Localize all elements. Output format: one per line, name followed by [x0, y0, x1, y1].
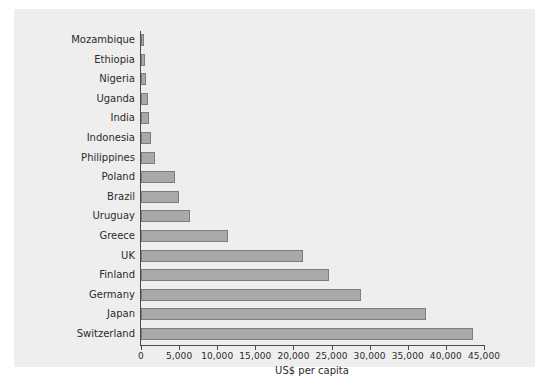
x-tick-label: 0: [138, 351, 144, 361]
category-label: UK: [0, 247, 135, 265]
category-label: Uganda: [0, 90, 135, 108]
x-tick: [293, 346, 294, 350]
x-tick-label: 35,000: [392, 351, 424, 361]
bar: [141, 112, 149, 124]
bar: [141, 191, 179, 203]
category-label: Uruguay: [0, 207, 135, 225]
x-tick-label: 10,000: [201, 351, 233, 361]
x-tick: [179, 346, 180, 350]
bar-row: Japan: [141, 305, 484, 325]
category-label: India: [0, 109, 135, 127]
x-axis-label: US$ per capita: [275, 365, 349, 376]
bar: [141, 210, 190, 222]
bar-row: Greece: [141, 227, 484, 247]
x-tick-label: 5,000: [166, 351, 192, 361]
bar-row: India: [141, 109, 484, 129]
x-tick-label: 25,000: [316, 351, 348, 361]
bar-row: UK: [141, 247, 484, 267]
bar: [141, 269, 329, 281]
bar: [141, 132, 151, 144]
bar: [141, 73, 146, 85]
bar: [141, 152, 155, 164]
x-tick: [370, 346, 371, 350]
category-label: Philippines: [0, 149, 135, 167]
bar-row: Switzerland: [141, 325, 484, 345]
bar-row: Uruguay: [141, 207, 484, 227]
x-tick-label: 15,000: [239, 351, 271, 361]
category-label: Indonesia: [0, 129, 135, 147]
chart-figure: 05,00010,00015,00020,00025,00030,00035,0…: [0, 0, 551, 386]
bar: [141, 289, 361, 301]
bar-row: Nigeria: [141, 70, 484, 90]
bar: [141, 328, 473, 340]
x-tick-label: 30,000: [354, 351, 386, 361]
bar: [141, 93, 148, 105]
bar-row: Mozambique: [141, 31, 484, 51]
category-label: Nigeria: [0, 70, 135, 88]
bar: [141, 54, 145, 66]
x-tick: [141, 346, 142, 350]
x-tick: [217, 346, 218, 350]
x-tick: [332, 346, 333, 350]
category-label: Ethiopia: [0, 51, 135, 69]
bar-row: Germany: [141, 286, 484, 306]
bar-row: Poland: [141, 168, 484, 188]
x-tick: [484, 346, 485, 350]
bar: [141, 230, 228, 242]
chart-panel: 05,00010,00015,00020,00025,00030,00035,0…: [14, 9, 535, 367]
category-label: Greece: [0, 227, 135, 245]
category-label: Switzerland: [0, 325, 135, 343]
category-label: Germany: [0, 286, 135, 304]
bar-row: Finland: [141, 266, 484, 286]
bar-row: Ethiopia: [141, 51, 484, 71]
bar-row: Brazil: [141, 188, 484, 208]
x-tick: [408, 346, 409, 350]
bar: [141, 34, 144, 46]
x-tick-label: 20,000: [277, 351, 309, 361]
category-label: Brazil: [0, 188, 135, 206]
bar-row: Uganda: [141, 90, 484, 110]
bar-row: Philippines: [141, 149, 484, 169]
category-label: Japan: [0, 305, 135, 323]
category-label: Poland: [0, 168, 135, 186]
x-tick-label: 45,000: [468, 351, 500, 361]
bar: [141, 250, 303, 262]
category-label: Mozambique: [0, 31, 135, 49]
x-tick: [446, 346, 447, 350]
x-tick: [255, 346, 256, 350]
bar-row: Indonesia: [141, 129, 484, 149]
bar: [141, 308, 426, 320]
x-tick-label: 40,000: [430, 351, 462, 361]
category-label: Finland: [0, 266, 135, 284]
bar: [141, 171, 175, 183]
